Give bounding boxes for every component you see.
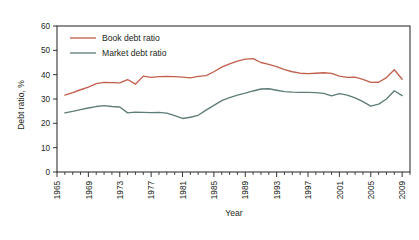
x-tick-label: 2009 [398,181,407,200]
debt-ratio-line-chart: 0102030405060 19651969197319771981198519… [0,0,419,240]
legend-label-book: Book debt ratio [102,33,160,43]
x-tick-label: 1969 [85,181,94,200]
x-tick-label: 2001 [336,181,345,200]
y-axis-title: Debt ratio, % [16,80,26,130]
y-tick-label: 20 [41,119,51,128]
y-tick-label: 10 [41,144,51,153]
x-axis-title: Year [225,208,243,218]
y-tick-label: 40 [41,71,51,80]
y-tick-label: 0 [45,168,50,177]
x-tick-label: 1989 [241,181,250,200]
y-tick-label: 60 [41,22,51,31]
y-tick-label: 30 [41,95,51,104]
y-tick-label: 50 [41,46,51,55]
x-tick-label: 1993 [273,181,282,200]
x-tick-label: 1973 [116,181,125,200]
x-tick-label: 1981 [179,181,188,200]
chart-svg: 0102030405060 19651969197319771981198519… [0,0,419,240]
x-tick-label: 1997 [304,181,313,200]
x-tick-label: 1985 [210,181,219,200]
chart-background [0,0,419,240]
x-tick-label: 1965 [53,181,62,200]
x-tick-label: 1977 [147,181,156,200]
legend-label-market: Market debt ratio [102,48,167,58]
x-tick-label: 2005 [367,181,376,200]
